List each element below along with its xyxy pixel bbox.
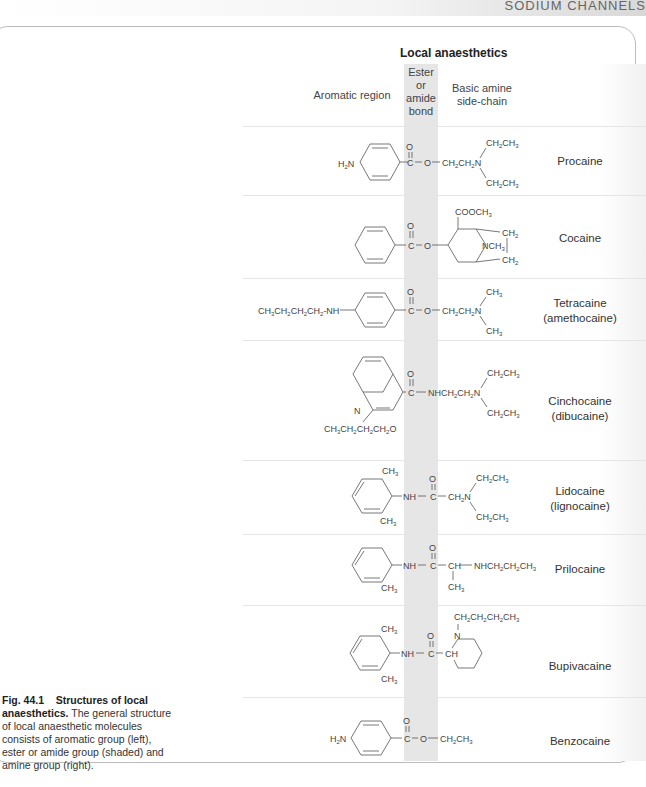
svg-text:CH3: CH3 [381,624,398,635]
svg-text:H2N: H2N [338,159,354,170]
svg-text:CH2CH3: CH2CH3 [476,512,509,523]
bupivacaine-structure: CH3 CH3 NH O C CH N CH2CH2CH2CH3 [200,608,530,696]
svg-text:CH2CH3: CH2CH3 [476,473,509,484]
svg-text:CH2CH2CH2CH3: CH2CH2CH2CH3 [454,612,520,623]
svg-text:CH3: CH3 [380,516,397,527]
lidocaine-structure: CH3 CH3 NH O C CH2N CH2CH3 CH2CH3 [200,462,530,532]
svg-text:NH: NH [403,492,416,502]
svg-text:O: O [429,543,436,553]
caption-label: Fig. 44.1 [2,694,44,706]
procaine-structure: H2N O C O CH2CH2N CH2CH3 CH2CH3 [200,130,530,192]
bond-line-3: amide [404,92,438,105]
svg-text:O: O [407,287,414,297]
svg-text:CH2CH3: CH2CH3 [486,178,519,189]
svg-text:O: O [424,158,431,168]
cinchocaine-structure: N CH3CH2CH2CH2O O C NHCH2CH2N CH2CH3 CH2… [200,342,530,458]
svg-text:CH2CH3: CH2CH3 [487,368,520,379]
svg-text:CH: CH [448,561,461,571]
svg-text:CH3: CH3 [381,674,398,685]
svg-text:C: C [408,388,415,398]
name: Tetracaine [525,296,635,311]
bond-line-4: bond [404,105,438,118]
amine-line-1: Basic amine [442,82,522,95]
svg-text:O: O [403,716,410,726]
compound-name-cinchocaine: Cinchocaine (dibucaine) [525,394,635,424]
prilocaine-structure: CH3 NH O C CH CH3 NHCH2CH2CH3 [200,538,530,604]
row-divider [243,534,646,535]
compound-name-procaine: Procaine [525,154,635,169]
svg-text:CH3: CH3 [486,326,503,337]
svg-text:NHCH2CH2N: NHCH2CH2N [428,388,480,399]
svg-text:N: N [354,406,361,416]
svg-text:O: O [424,306,431,316]
figure-caption: Fig. 44.1 Structures of local anaestheti… [2,694,172,772]
figure-title: Local anaesthetics [400,46,507,60]
svg-text:C: C [408,241,415,251]
svg-text:CH3: CH3 [486,287,503,298]
svg-text:C: C [408,306,415,316]
svg-text:H2N: H2N [330,734,346,745]
row-divider [243,460,646,461]
svg-text:C: C [430,561,437,571]
svg-text:O: O [429,474,436,484]
compound-name-tetracaine: Tetracaine (amethocaine) [525,296,635,326]
svg-text:CH: CH [445,649,458,659]
amine-line-2: side-chain [442,95,522,108]
bond-line-1: Ester [404,66,438,79]
svg-text:N: N [454,631,461,641]
svg-text:NH: NH [401,649,414,659]
svg-text:CH3: CH3 [381,583,398,594]
compound-name-cocaine: Cocaine [525,231,635,246]
header-strip: SODIUM CHANNELS [0,0,646,16]
svg-text:C: C [404,734,411,744]
svg-text:CH3CH2CH2CH2O: CH3CH2CH2CH2O [324,424,396,435]
row-divider [243,195,646,196]
benzocaine-structure: H2N O C O CH2CH3 [200,700,530,758]
svg-text:C: C [430,492,437,502]
row-divider [243,126,646,127]
svg-text:CH2CH3: CH2CH3 [486,138,519,149]
tetracaine-structure: CH3CH2CH2CH2-NH O C O CH2CH2N CH3 CH3 [200,282,530,338]
bond-line-2: or [404,79,438,92]
header-amine: Basic amine side-chain [442,82,522,108]
svg-text:CH3: CH3 [382,466,399,477]
svg-text:O: O [427,631,434,641]
row-divider [243,697,646,698]
row-divider [243,340,646,341]
svg-text:CH2: CH2 [502,228,519,239]
compound-name-benzocaine: Benzocaine [525,734,635,749]
name: Cinchocaine [525,394,635,409]
alt-name: (dibucaine) [525,409,635,424]
row-divider [243,278,646,279]
row-divider [243,605,646,606]
compound-name-bupivacaine: Bupivacaine [525,659,635,674]
svg-text:O: O [424,241,431,251]
chapter-header: SODIUM CHANNELS [505,0,646,12]
svg-text:O: O [420,734,427,744]
header-aromatic: Aromatic region [306,89,398,102]
svg-text:CH2CH2N: CH2CH2N [442,158,481,169]
cocaine-structure: O C O COOCH3 NCH3 CH2 CH2 [200,205,530,277]
svg-text:CH2N: CH2N [448,492,471,503]
compound-name-prilocaine: Prilocaine [525,562,635,577]
svg-text:CH3: CH3 [448,582,465,593]
alt-name: (lignocaine) [525,499,635,514]
svg-text:CH2: CH2 [502,255,519,266]
svg-text:O: O [406,142,413,152]
alt-name: (amethocaine) [525,311,635,326]
svg-text:CH2CH2N: CH2CH2N [442,306,481,317]
svg-text:CH3CH2CH2CH2-NH: CH3CH2CH2CH2-NH [258,306,339,317]
svg-text:COOCH3: COOCH3 [455,207,493,218]
svg-text:O: O [407,221,414,231]
header-bond: Ester or amide bond [404,66,438,118]
svg-text:CH2CH3: CH2CH3 [440,734,473,745]
svg-text:C: C [407,158,414,168]
svg-text:C: C [428,649,435,659]
svg-text:O: O [407,369,414,379]
name: Lidocaine [525,484,635,499]
svg-text:NH: NH [403,561,416,571]
svg-text:NCH3: NCH3 [482,241,506,252]
svg-text:CH2CH3: CH2CH3 [487,408,520,419]
compound-name-lidocaine: Lidocaine (lignocaine) [525,484,635,514]
